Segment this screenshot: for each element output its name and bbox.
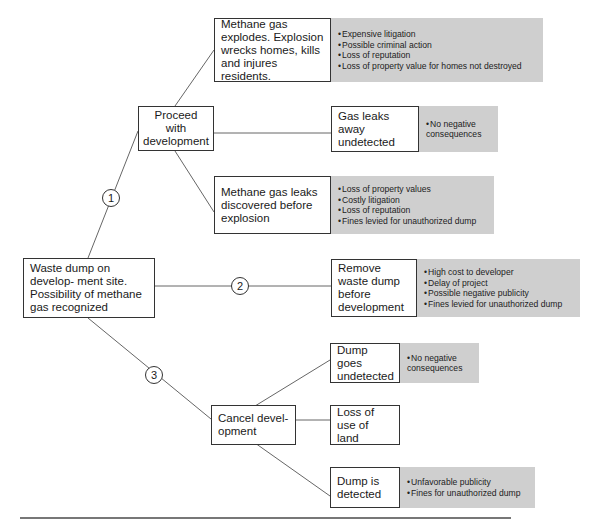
consequences-dump-undetected: No negative consequences (400, 343, 479, 383)
option-proceed-label: Proceed with development (143, 109, 209, 148)
event-dump-undetected-label: Dump goes undetected (337, 344, 394, 383)
event-dump-undetected-node: Dump goes undetected (330, 343, 400, 383)
option-remove-label: Remove waste dump before development (338, 262, 410, 314)
consequence-item: Fines for unauthorized dump (407, 488, 528, 499)
event-explodes-node: Methane gas explodes. Explosion wrecks h… (214, 18, 331, 82)
consequence-item: Expensive litigation (338, 29, 536, 40)
consequences-remove: High cost to developer Delay of project … (417, 259, 580, 317)
event-explodes-label: Methane gas explodes. Explosion wrecks h… (221, 18, 324, 83)
consequence-item: Loss of property values (338, 184, 487, 195)
bottom-rule (20, 517, 511, 519)
consequence-item: High cost to developer (424, 267, 573, 278)
consequences-leaks-discovered: Loss of property values Costly litigatio… (331, 176, 494, 234)
consequence-item: Possible criminal action (338, 40, 536, 51)
option-remove-node: Remove waste dump before development (331, 259, 417, 317)
consequence-item: Unfavorable publicity (407, 477, 528, 488)
consequence-item: No negative consequences (426, 119, 491, 140)
consequence-item: Fines levied for unauthorized dump (424, 299, 573, 310)
consequence-item: Loss of reputation (338, 50, 536, 61)
consequence-item: Delay of project (424, 278, 573, 289)
consequence-item: Fines levied for unauthorized dump (338, 216, 487, 227)
event-dump-detected-label: Dump is detected (337, 475, 393, 501)
option-proceed-node: Proceed with development (138, 106, 214, 151)
event-loss-of-land-label: Loss of use of land (337, 406, 393, 445)
consequence-item: No negative consequences (407, 353, 472, 374)
option-cancel-node: Cancel devel- opment (211, 405, 296, 445)
decision-tree: Waste dump on develop- ment site. Possib… (0, 0, 590, 526)
consequence-item: Possible negative publicity (424, 288, 573, 299)
event-leaks-discovered-node: Methane gas leaks discovered before expl… (214, 176, 331, 234)
option-1-number: 1 (102, 189, 120, 207)
option-cancel-label: Cancel devel- opment (218, 412, 289, 438)
event-gas-leaks-away-node: Gas leaks away undetected (331, 106, 419, 152)
event-dump-detected-node: Dump is detected (330, 467, 400, 508)
option-2-number: 2 (231, 277, 249, 295)
option-3-number: 3 (145, 366, 163, 384)
root-node: Waste dump on develop- ment site. Possib… (23, 258, 155, 318)
consequence-item: Loss of property value for homes not des… (338, 61, 536, 72)
consequences-explodes: Expensive litigation Possible criminal a… (331, 18, 543, 82)
consequences-gas-leaks-away: No negative consequences (419, 106, 498, 152)
root-label: Waste dump on develop- ment site. Possib… (30, 262, 148, 314)
consequences-dump-detected: Unfavorable publicity Fines for unauthor… (400, 467, 535, 508)
event-leaks-discovered-label: Methane gas leaks discovered before expl… (221, 186, 324, 225)
consequence-item: Costly litigation (338, 195, 487, 206)
event-loss-of-land-node: Loss of use of land (330, 405, 400, 445)
event-gas-leaks-away-label: Gas leaks away undetected (338, 110, 412, 149)
consequence-item: Loss of reputation (338, 205, 487, 216)
